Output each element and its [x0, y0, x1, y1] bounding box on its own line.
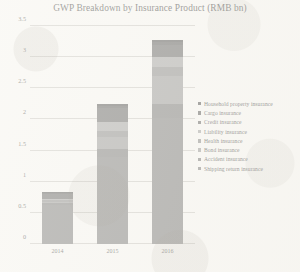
- legend-swatch-icon: [198, 130, 201, 133]
- bar-segment[interactable]: [97, 108, 128, 122]
- bar-segment[interactable]: [152, 118, 183, 244]
- y-axis-tick-label: 3.5: [18, 15, 26, 22]
- legend-item[interactable]: Liability insurance: [198, 127, 298, 136]
- legend-item-label: Cargo insurance: [204, 110, 241, 116]
- bar-segment[interactable]: [152, 76, 183, 104]
- legend-swatch-icon: [198, 167, 201, 170]
- bar-segment[interactable]: [152, 67, 183, 76]
- plot-area: 201420152016: [30, 26, 195, 244]
- legend-item-label: Bond insurance: [204, 147, 240, 153]
- legend-swatch-icon: [198, 139, 201, 142]
- y-axis-tick-label: 0.5: [18, 202, 26, 209]
- bar-segment[interactable]: [42, 205, 73, 244]
- legend-item[interactable]: Accident insurance: [198, 155, 298, 164]
- legend-swatch-icon: [198, 121, 201, 124]
- y-axis-tick-labels: 00.511.522.533.5: [2, 26, 28, 244]
- legend-item[interactable]: Bond insurance: [198, 145, 298, 154]
- legend-item-label: Household property insurance: [204, 101, 273, 107]
- y-axis-tick-label: 1: [23, 171, 26, 178]
- x-axis-tick-label: 2014: [34, 248, 82, 254]
- bar-segment[interactable]: [97, 137, 128, 149]
- bar-segment[interactable]: [152, 104, 183, 118]
- bar-stack[interactable]: [42, 192, 73, 244]
- x-axis-tick-label: 2016: [144, 248, 192, 254]
- x-axis-tick-label: 2015: [89, 248, 137, 254]
- bar-segment[interactable]: [152, 45, 183, 57]
- y-axis-tick-label: 2.5: [18, 78, 26, 85]
- legend-item[interactable]: Credit insurance: [198, 118, 298, 127]
- chart-legend: Household property insuranceCargo insura…: [198, 99, 298, 173]
- y-axis-tick-label: 0: [23, 233, 26, 240]
- legend-swatch-icon: [198, 102, 201, 105]
- chart-container: GWP Breakdown by Insurance Product (RMB …: [0, 0, 300, 272]
- legend-item-label: Accident insurance: [204, 156, 248, 162]
- legend-item-label: Credit insurance: [204, 119, 242, 125]
- legend-item-label: Liability insurance: [204, 129, 247, 135]
- y-axis-tick-label: 3: [23, 47, 26, 54]
- bar-segment[interactable]: [97, 157, 128, 244]
- legend-item[interactable]: Household property insurance: [198, 99, 298, 108]
- bar-segment[interactable]: [152, 57, 183, 67]
- legend-item[interactable]: Shipping return insurance: [198, 164, 298, 173]
- legend-item[interactable]: Health insurance: [198, 136, 298, 145]
- legend-item-label: Health insurance: [204, 138, 243, 144]
- legend-item[interactable]: Cargo insurance: [198, 108, 298, 117]
- bar-segment[interactable]: [97, 149, 128, 156]
- y-axis-tick-label: 2: [23, 109, 26, 116]
- bar-segment[interactable]: [97, 122, 128, 131]
- legend-swatch-icon: [198, 111, 201, 114]
- legend-swatch-icon: [198, 148, 201, 151]
- bar-stack[interactable]: [97, 104, 128, 244]
- legend-item-label: Shipping return insurance: [204, 166, 263, 172]
- gridline: [30, 25, 195, 26]
- y-axis-tick-label: 1.5: [18, 140, 26, 147]
- legend-swatch-icon: [198, 158, 201, 161]
- chart-title: GWP Breakdown by Insurance Product (RMB …: [0, 3, 300, 13]
- bar-stack[interactable]: [152, 40, 183, 244]
